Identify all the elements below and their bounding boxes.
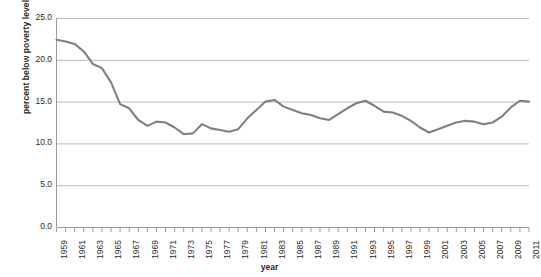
gridlines: [57, 19, 530, 186]
x-axis-tick-marks: [57, 228, 530, 232]
poverty-rate-line: [57, 40, 530, 134]
